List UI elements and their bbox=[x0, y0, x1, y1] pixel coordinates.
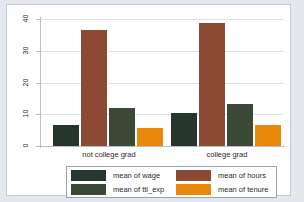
bar-tenure-college-grad[interactable] bbox=[255, 125, 281, 146]
legend-item-tenure[interactable]: mean of tenure bbox=[176, 183, 268, 196]
y-tick-mark-40 bbox=[36, 19, 41, 20]
bar-hours-not-college-grad[interactable] bbox=[81, 30, 107, 146]
graph-canvas: 40 30 20 10 0 not college grad college g… bbox=[6, 4, 291, 196]
legend-swatch-tenure-icon bbox=[176, 184, 211, 195]
chart-legend: mean of wage mean of ttl_exp mean of hou… bbox=[66, 166, 277, 198]
y-tick-label-20: 20 bbox=[22, 74, 29, 90]
bar-group-not-college-grad bbox=[53, 19, 165, 146]
y-tick-mark-0 bbox=[36, 146, 41, 147]
legend-item-hours[interactable]: mean of hours bbox=[176, 169, 266, 182]
graph-figure: 40 30 20 10 0 not college grad college g… bbox=[0, 0, 304, 202]
y-tick-label-10: 10 bbox=[22, 106, 29, 122]
legend-item-wage[interactable]: mean of wage bbox=[71, 169, 160, 182]
legend-label-wage: mean of wage bbox=[113, 171, 160, 180]
y-tick-label-40: 40 bbox=[22, 11, 29, 27]
legend-swatch-hours-icon bbox=[176, 170, 211, 181]
bar-ttlexp-not-college-grad[interactable] bbox=[109, 108, 135, 146]
y-tick-mark-10 bbox=[36, 114, 41, 115]
legend-swatch-wage-icon bbox=[71, 170, 106, 181]
y-tick-mark-20 bbox=[36, 83, 41, 84]
bar-group-college-grad bbox=[171, 19, 283, 146]
x-category-label-college-grad: college grad bbox=[171, 150, 283, 159]
legend-label-hours: mean of hours bbox=[218, 171, 266, 180]
x-category-label-not-college-grad: not college grad bbox=[53, 150, 165, 159]
y-tick-label-0: 0 bbox=[22, 138, 29, 154]
legend-swatch-ttl-exp-icon bbox=[71, 184, 106, 195]
legend-label-ttl-exp: mean of ttl_exp bbox=[113, 185, 164, 194]
bar-ttlexp-college-grad[interactable] bbox=[227, 104, 253, 146]
legend-item-ttl-exp[interactable]: mean of ttl_exp bbox=[71, 183, 164, 196]
plot-area bbox=[41, 19, 284, 146]
legend-label-tenure: mean of tenure bbox=[218, 185, 268, 194]
bar-tenure-not-college-grad[interactable] bbox=[137, 128, 163, 146]
y-tick-mark-30 bbox=[36, 51, 41, 52]
y-tick-label-30: 30 bbox=[22, 42, 29, 58]
x-axis-line bbox=[40, 146, 285, 147]
bar-wage-college-grad[interactable] bbox=[171, 113, 197, 146]
bar-hours-college-grad[interactable] bbox=[199, 23, 225, 146]
bar-wage-not-college-grad[interactable] bbox=[53, 125, 79, 146]
